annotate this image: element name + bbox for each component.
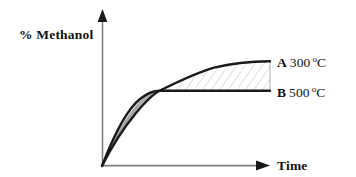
arrow-up-icon	[98, 9, 108, 22]
curve-b-500c	[102, 91, 270, 166]
curve-label-a: A300oC	[277, 54, 326, 71]
pre-crossover-shaded-region	[102, 90, 160, 166]
y-axis-label: % Methanol	[19, 27, 93, 43]
curve-b-temperature: 500	[289, 85, 310, 100]
curve-a-temperature: 300	[290, 55, 311, 70]
curve-a-unit: oC	[312, 55, 326, 70]
curve-label-b: B500oC	[277, 84, 325, 101]
methanol-yield-chart: % Methanol Time A300oC B500oC	[0, 0, 356, 177]
curve-a-letter: A	[277, 55, 287, 70]
celsius-letter-a: C	[317, 55, 326, 70]
arrow-right-icon	[256, 161, 270, 171]
post-crossover-hatched-region	[160, 61, 270, 91]
curve-b-unit: oC	[312, 85, 326, 100]
celsius-letter-b: C	[316, 85, 325, 100]
curve-b-letter: B	[277, 85, 286, 100]
x-axis-label: Time	[277, 158, 308, 174]
